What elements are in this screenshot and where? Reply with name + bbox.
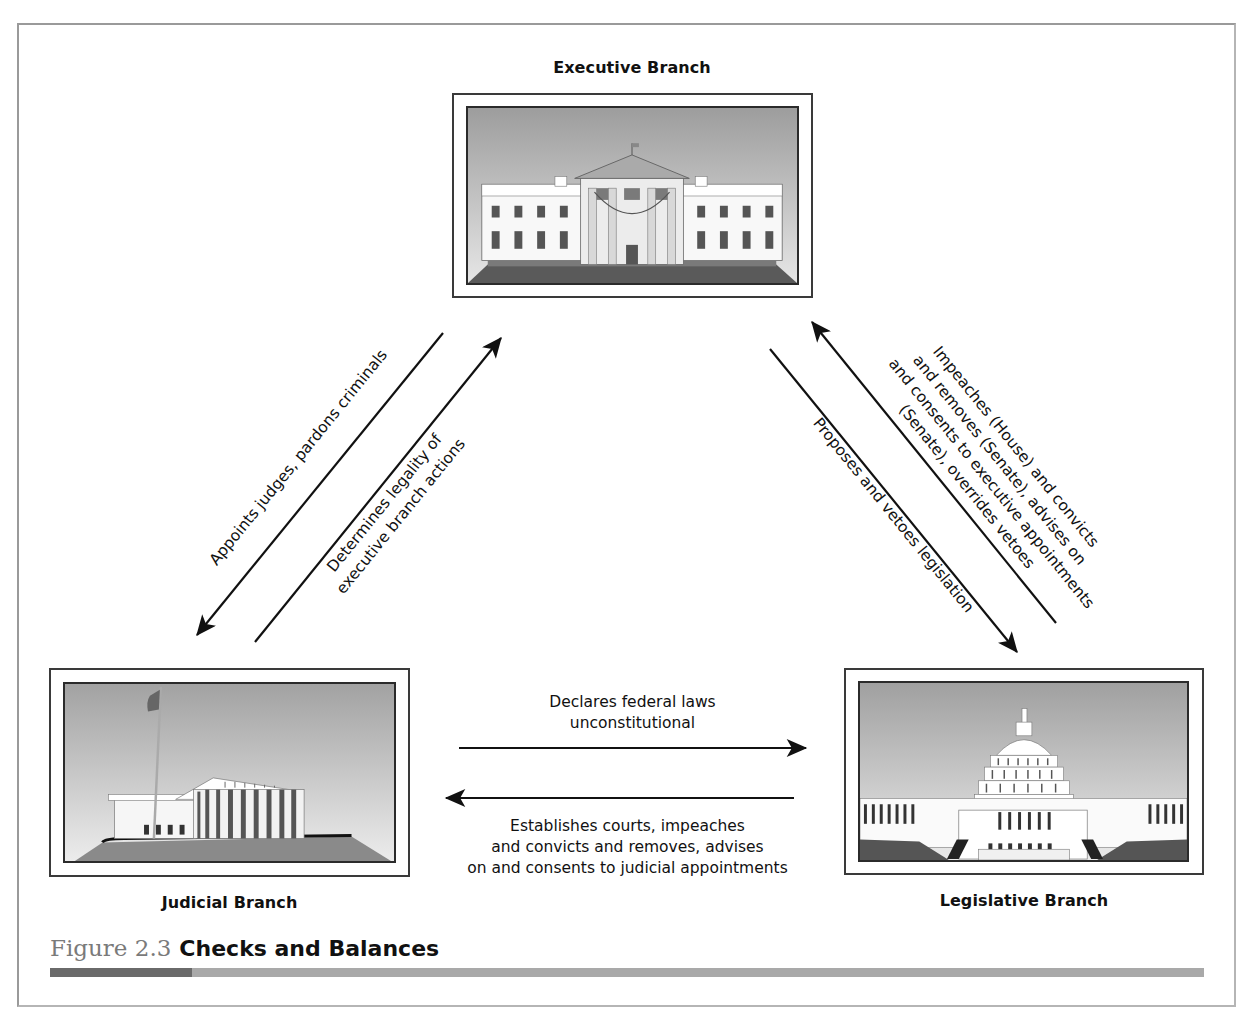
figure-number: Figure 2.3 (50, 935, 171, 961)
label-legislative-to-judicial: Establishes courts, impeaches and convic… (440, 816, 815, 879)
arrow-judicial-to-exec (255, 338, 501, 642)
caption-rule (192, 968, 1204, 977)
caption-rule-accent (50, 968, 192, 977)
label-judicial-to-legislative: Declares federal laws unconstitutional (459, 692, 806, 734)
figure-caption: Figure 2.3Checks and Balances (50, 935, 439, 961)
figure-title: Checks and Balances (179, 936, 439, 961)
